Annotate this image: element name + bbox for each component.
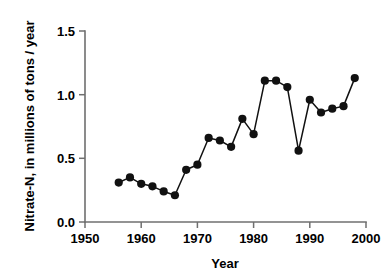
x-tick-label-1: 1960 bbox=[127, 231, 156, 246]
line-chart: 0.0 0.5 1.0 1.5 1950 1960 1970 1980 1990… bbox=[0, 0, 389, 279]
x-tick-label-5: 2000 bbox=[352, 231, 381, 246]
data-point bbox=[171, 191, 179, 199]
data-point bbox=[148, 182, 156, 190]
y-tick-label-1: 0.5 bbox=[57, 151, 75, 166]
data-point bbox=[261, 77, 269, 85]
data-point bbox=[250, 130, 258, 138]
data-point bbox=[137, 180, 145, 188]
data-point bbox=[115, 178, 123, 186]
y-axis-tick-labels: 0.0 0.5 1.0 1.5 bbox=[57, 24, 75, 230]
y-axis-title: Nitrate-N, in millions of tons / year bbox=[22, 21, 37, 232]
series-markers-nitrate bbox=[115, 74, 359, 199]
data-point bbox=[182, 166, 190, 174]
y-tick-label-2: 1.0 bbox=[57, 88, 75, 103]
series-line-nitrate bbox=[119, 78, 355, 195]
x-tick-label-2: 1970 bbox=[183, 231, 212, 246]
x-tick-label-0: 1950 bbox=[71, 231, 100, 246]
y-tick-label-0: 0.0 bbox=[57, 215, 75, 230]
data-point bbox=[272, 77, 280, 85]
x-axis-tick-labels: 1950 1960 1970 1980 1990 2000 bbox=[71, 231, 381, 246]
data-point bbox=[205, 134, 213, 142]
x-tick-label-3: 1980 bbox=[239, 231, 268, 246]
x-axis-ticks bbox=[85, 222, 366, 228]
data-point bbox=[160, 187, 168, 195]
y-axis-ticks bbox=[79, 31, 85, 222]
data-point bbox=[306, 96, 314, 104]
data-point bbox=[227, 143, 235, 151]
chart-container: 0.0 0.5 1.0 1.5 1950 1960 1970 1980 1990… bbox=[0, 0, 389, 279]
data-point bbox=[216, 136, 224, 144]
data-point bbox=[294, 147, 302, 155]
data-point bbox=[193, 161, 201, 169]
x-tick-label-4: 1990 bbox=[295, 231, 324, 246]
data-point bbox=[238, 115, 246, 123]
data-point bbox=[351, 74, 359, 82]
x-axis-title: Year bbox=[211, 256, 238, 271]
data-point bbox=[317, 108, 325, 116]
data-point bbox=[283, 83, 291, 91]
data-point bbox=[328, 105, 336, 113]
y-tick-label-3: 1.5 bbox=[57, 24, 75, 39]
data-point bbox=[339, 102, 347, 110]
data-point bbox=[126, 173, 134, 181]
